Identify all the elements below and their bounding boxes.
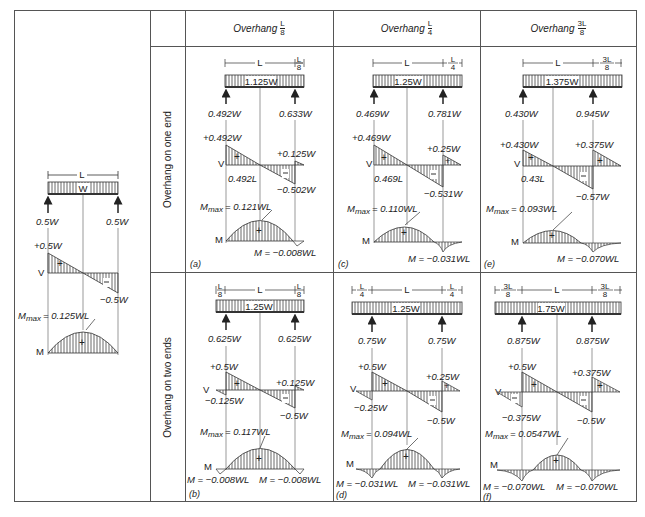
svg-text:1.375W: 1.375W	[546, 76, 579, 87]
svg-text:M = −0.008WL: M = −0.008WL	[187, 474, 249, 485]
svg-text:V: V	[218, 158, 225, 169]
svg-text:−0.25W: −0.25W	[354, 402, 388, 413]
svg-text:M: M	[215, 234, 223, 245]
svg-text:M: M	[490, 459, 498, 470]
svg-text:8: 8	[605, 63, 610, 72]
svg-text:1.25W: 1.25W	[392, 303, 419, 314]
svg-text:0.430W: 0.430W	[505, 108, 539, 119]
svg-text:+: +	[381, 152, 387, 163]
svg-text:1.25W: 1.25W	[394, 76, 421, 87]
svg-text:0.75W: 0.75W	[428, 335, 456, 346]
svg-text:0.781W: 0.781W	[428, 108, 462, 119]
svg-text:1.125W: 1.125W	[245, 76, 278, 87]
svg-text:M: M	[362, 235, 370, 246]
svg-text:M = −0.070WL: M = −0.070WL	[483, 481, 545, 492]
svg-text:+0.5W: +0.5W	[358, 361, 387, 372]
svg-text:V: V	[495, 386, 502, 397]
diagram-a: L L 8 1.125W 0.492W 0.633W +0.492W V + +…	[190, 55, 316, 269]
svg-text:L: L	[404, 284, 409, 295]
svg-text:+: +	[531, 379, 537, 390]
svg-text:4: 4	[450, 290, 455, 299]
svg-text:+: +	[234, 151, 240, 162]
svg-text:0.469W: 0.469W	[356, 108, 390, 119]
svg-text:+: +	[403, 451, 409, 462]
svg-text:+: +	[79, 337, 85, 348]
svg-text:+0.492W: +0.492W	[203, 132, 242, 143]
svg-text:+0.125W: +0.125W	[276, 377, 315, 388]
svg-text:(a): (a)	[190, 259, 201, 269]
svg-text:−0.375W: −0.375W	[502, 412, 541, 423]
svg-text:M: M	[204, 461, 212, 472]
svg-text:0.469L: 0.469L	[374, 173, 403, 184]
svg-text:+: +	[445, 156, 450, 166]
svg-text:L: L	[79, 169, 84, 180]
svg-text:L: L	[404, 57, 409, 68]
svg-text:V: V	[350, 383, 357, 394]
svg-text:+0.25W: +0.25W	[426, 371, 460, 382]
svg-text:−0.57W: −0.57W	[576, 191, 610, 202]
svg-text:M = −0.070WL: M = −0.070WL	[557, 253, 619, 264]
svg-text:+0.5W: +0.5W	[210, 361, 239, 372]
svg-text:−0.5W: −0.5W	[427, 415, 456, 426]
svg-text:−0.5W: −0.5W	[577, 415, 606, 426]
svg-text:+0.375W: +0.375W	[575, 139, 614, 150]
svg-text:1.75W: 1.75W	[537, 303, 564, 314]
svg-text:+: +	[597, 155, 603, 166]
svg-text:M = −0.008WL: M = −0.008WL	[254, 247, 316, 258]
svg-text:+0.375W: +0.375W	[572, 367, 611, 378]
svg-text:Mmax= 0.0547WL: Mmax= 0.0547WL	[485, 428, 562, 441]
svg-text:M: M	[346, 458, 354, 469]
diagram-d: L 4 L L 4 1.25W 0.75W 0.75W +0.5W V + + …	[336, 282, 470, 500]
simple-beam-diagram: L W 0.5W 0.5W +0.5W V + −0.5W Mmax= 0.12…	[18, 169, 129, 357]
svg-text:V: V	[203, 384, 210, 395]
svg-text:8: 8	[506, 290, 511, 299]
svg-text:M = −0.070WL: M = −0.070WL	[556, 481, 618, 492]
svg-text:0.625W: 0.625W	[278, 333, 312, 344]
svg-text:+0.125W: +0.125W	[277, 148, 316, 159]
svg-text:(f): (f)	[483, 492, 492, 502]
svg-text:L: L	[554, 284, 559, 295]
svg-text:4: 4	[360, 290, 365, 299]
svg-text:8: 8	[297, 290, 302, 299]
svg-text:8: 8	[297, 63, 302, 72]
svg-text:+: +	[234, 378, 240, 389]
svg-text:+: +	[57, 258, 63, 269]
svg-text:+: +	[549, 230, 555, 241]
svg-text:0.875W: 0.875W	[576, 335, 610, 346]
svg-text:+: +	[256, 453, 262, 464]
svg-text:M = −0.031WL: M = −0.031WL	[336, 478, 398, 489]
mmax-label: Mmax= 0.125WL	[18, 310, 89, 323]
svg-text:Mmax= 0.093WL: Mmax= 0.093WL	[486, 203, 557, 216]
svg-text:+0.430W: +0.430W	[500, 139, 539, 150]
svg-text:0.945W: 0.945W	[576, 108, 610, 119]
svg-text:0.5W: 0.5W	[36, 216, 59, 227]
svg-text:V: V	[38, 267, 45, 278]
svg-text:4: 4	[451, 63, 456, 72]
diagram-e: L 3L 8 1.375W 0.430W 0.945W +0.430W V + …	[484, 55, 622, 269]
svg-text:L: L	[257, 57, 262, 68]
diagram-b: L 8 L L 8 1.25W 0.625W 0.625W +0.5W V + …	[187, 282, 321, 499]
svg-text:W: W	[79, 183, 88, 194]
svg-text:−0.531W: −0.531W	[424, 188, 463, 199]
svg-text:+: +	[256, 225, 262, 236]
svg-text:+: +	[553, 455, 559, 466]
svg-text:0.633W: 0.633W	[279, 108, 313, 119]
svg-text:(d): (d)	[336, 490, 347, 500]
svg-text:V: V	[514, 158, 521, 169]
diagram-f: 3L 8 L 3L 8 1.75W 0.875W 0.875W +0.5W V …	[483, 282, 622, 502]
svg-text:−0.5W: −0.5W	[100, 294, 129, 305]
svg-text:M = −0.008WL: M = −0.008WL	[259, 474, 321, 485]
svg-text:0.5W: 0.5W	[106, 216, 129, 227]
svg-text:8: 8	[218, 290, 223, 299]
svg-text:0.492W: 0.492W	[208, 108, 242, 119]
diagram-c: L L 4 1.25W 0.469W 0.781W +0.469W V + + …	[338, 55, 470, 269]
svg-text:M: M	[36, 346, 44, 357]
svg-text:M = −0.031WL: M = −0.031WL	[408, 253, 470, 264]
svg-text:+: +	[444, 381, 449, 391]
svg-text:1.25W: 1.25W	[245, 301, 272, 312]
svg-text:(e): (e)	[484, 259, 495, 269]
svg-text:+0.5W: +0.5W	[508, 361, 537, 372]
svg-text:+: +	[401, 227, 407, 238]
svg-text:8: 8	[603, 290, 608, 299]
svg-text:Mmax= 0.094WL: Mmax= 0.094WL	[341, 428, 412, 441]
